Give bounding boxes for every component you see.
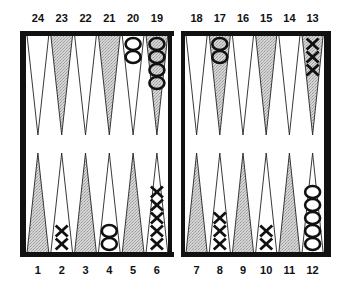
checker-o[interactable] xyxy=(305,238,320,250)
point-13[interactable] xyxy=(302,35,323,135)
point-label-8: 8 xyxy=(217,264,223,276)
point-label-12: 12 xyxy=(306,264,318,276)
point-label-17: 17 xyxy=(214,12,226,24)
point-2[interactable] xyxy=(51,153,73,253)
checker-o[interactable] xyxy=(126,51,141,63)
point-label-22: 22 xyxy=(79,12,91,24)
point-7[interactable] xyxy=(186,153,207,253)
point-label-16: 16 xyxy=(237,12,249,24)
point-label-5: 5 xyxy=(130,264,136,276)
point-label-18: 18 xyxy=(190,12,202,24)
point-label-6: 6 xyxy=(154,264,160,276)
point-label-24: 24 xyxy=(32,12,45,24)
point-label-14: 14 xyxy=(283,12,296,24)
point-16[interactable] xyxy=(232,35,253,135)
point-1[interactable] xyxy=(27,153,49,253)
point-label-4: 4 xyxy=(106,264,113,276)
point-23[interactable] xyxy=(51,35,73,135)
point-10[interactable] xyxy=(256,153,277,253)
checkers-layer xyxy=(56,38,320,250)
checker-o[interactable] xyxy=(212,51,227,63)
point-18[interactable] xyxy=(186,35,207,135)
point-label-2: 2 xyxy=(59,264,65,276)
backgammon-board: 242322212019181716151413123456789101112 xyxy=(0,0,345,292)
checker-o[interactable] xyxy=(102,225,117,237)
point-label-9: 9 xyxy=(240,264,246,276)
point-label-19: 19 xyxy=(151,12,163,24)
point-24[interactable] xyxy=(27,35,49,135)
checker-o[interactable] xyxy=(305,199,320,211)
checker-o[interactable] xyxy=(126,38,141,50)
point-labels: 242322212019181716151413123456789101112 xyxy=(32,12,319,276)
point-22[interactable] xyxy=(75,35,97,135)
point-8[interactable] xyxy=(209,153,230,253)
point-label-3: 3 xyxy=(82,264,88,276)
point-label-15: 15 xyxy=(260,12,272,24)
point-15[interactable] xyxy=(256,35,277,135)
points-layer xyxy=(27,35,323,253)
point-label-11: 11 xyxy=(284,264,296,276)
point-label-7: 7 xyxy=(194,264,200,276)
checker-o[interactable] xyxy=(149,38,164,50)
point-14[interactable] xyxy=(279,35,300,135)
point-label-20: 20 xyxy=(127,12,139,24)
point-9[interactable] xyxy=(232,153,253,253)
point-label-10: 10 xyxy=(260,264,272,276)
point-label-1: 1 xyxy=(35,264,41,276)
checker-o[interactable] xyxy=(149,51,164,63)
point-21[interactable] xyxy=(98,35,120,135)
checker-o[interactable] xyxy=(305,186,320,198)
checker-o[interactable] xyxy=(305,212,320,224)
point-5[interactable] xyxy=(122,153,144,253)
point-label-21: 21 xyxy=(103,12,115,24)
checker-o[interactable] xyxy=(102,238,117,250)
checker-o[interactable] xyxy=(212,38,227,50)
point-label-23: 23 xyxy=(56,12,68,24)
checker-o[interactable] xyxy=(149,64,164,76)
point-label-13: 13 xyxy=(306,12,318,24)
checker-o[interactable] xyxy=(149,77,164,89)
point-11[interactable] xyxy=(279,153,300,253)
point-3[interactable] xyxy=(75,153,97,253)
checker-o[interactable] xyxy=(305,225,320,237)
point-6[interactable] xyxy=(146,153,168,253)
